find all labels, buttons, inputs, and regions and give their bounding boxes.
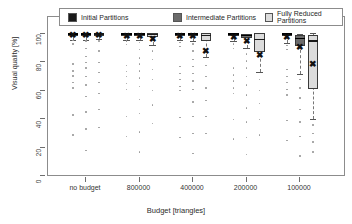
outlier-point bbox=[299, 136, 300, 137]
x-tick bbox=[246, 177, 247, 182]
outlier-point bbox=[85, 67, 86, 68]
outlier-point bbox=[259, 90, 260, 91]
median-line bbox=[254, 39, 265, 40]
outlier-point bbox=[98, 109, 99, 110]
outlier-point bbox=[246, 76, 247, 77]
whisker-cap bbox=[310, 119, 316, 120]
outlier-point bbox=[126, 89, 127, 90]
outlier-point bbox=[139, 49, 140, 50]
outlier-point bbox=[299, 155, 300, 156]
outlier-point bbox=[126, 40, 127, 41]
outlier-point bbox=[139, 113, 140, 114]
outlier-point bbox=[246, 107, 247, 108]
outlier-point bbox=[72, 87, 73, 88]
outlier-point bbox=[299, 87, 300, 88]
outlier-point bbox=[286, 82, 287, 83]
y-tick-label: 100 bbox=[35, 32, 42, 46]
outlier-point bbox=[126, 44, 127, 45]
outlier-point bbox=[286, 120, 287, 121]
median-line bbox=[295, 38, 306, 39]
outlier-point bbox=[192, 66, 193, 67]
outlier-point bbox=[179, 42, 180, 43]
outlier-point bbox=[179, 137, 180, 138]
legend-swatch bbox=[265, 13, 273, 22]
outlier-point bbox=[139, 99, 140, 100]
legend-swatch bbox=[173, 13, 182, 22]
outlier-point bbox=[139, 63, 140, 64]
outlier-point bbox=[233, 87, 234, 88]
outlier-point bbox=[299, 97, 300, 98]
outlier-point bbox=[259, 134, 260, 135]
y-tick-label: 20 bbox=[35, 146, 42, 160]
outlier-point bbox=[192, 59, 193, 60]
legend-item: Intermediate Partitions bbox=[173, 13, 256, 22]
outlier-point bbox=[205, 65, 206, 66]
outlier-point bbox=[312, 151, 313, 152]
median-line bbox=[308, 40, 319, 41]
outlier-point bbox=[72, 43, 73, 44]
mean-marker: ✖ bbox=[296, 42, 304, 51]
whisker-cap bbox=[310, 33, 316, 34]
outlier-point bbox=[205, 76, 206, 77]
legend-label: Intermediate Partitions bbox=[186, 14, 256, 21]
mean-marker: ✖ bbox=[123, 31, 131, 40]
mean-marker: ✖ bbox=[82, 31, 90, 40]
legend-item: Fully Reduced Partitions bbox=[265, 10, 342, 24]
x-tick bbox=[192, 177, 193, 182]
mean-marker: ✖ bbox=[69, 31, 77, 40]
outlier-point bbox=[246, 154, 247, 155]
outlier-point bbox=[98, 50, 99, 51]
y-tick-label: 80 bbox=[35, 60, 42, 74]
outlier-point bbox=[259, 103, 260, 104]
outlier-point bbox=[98, 40, 99, 41]
outlier-point bbox=[233, 80, 234, 81]
whisker-cap bbox=[230, 41, 236, 42]
outlier-point bbox=[139, 131, 140, 132]
outlier-point bbox=[72, 63, 73, 64]
outlier-point bbox=[85, 48, 86, 49]
outlier-point bbox=[233, 138, 234, 139]
outlier-point bbox=[126, 83, 127, 84]
y-tick-label: 40 bbox=[35, 117, 42, 131]
outlier-point bbox=[85, 84, 86, 85]
outlier-point bbox=[259, 79, 260, 80]
outlier-point bbox=[85, 128, 86, 129]
y-tick-label: 60 bbox=[35, 89, 42, 103]
outlier-point bbox=[98, 62, 99, 63]
x-tick bbox=[299, 177, 300, 182]
outlier-point bbox=[179, 66, 180, 67]
outlier-point bbox=[72, 114, 73, 115]
mean-marker: ✖ bbox=[149, 34, 157, 43]
mean-marker: ✖ bbox=[283, 32, 291, 41]
outlier-point bbox=[72, 82, 73, 83]
outlier-point bbox=[152, 104, 153, 105]
outlier-point bbox=[312, 133, 313, 134]
outlier-point bbox=[286, 89, 287, 90]
outlier-point bbox=[139, 42, 140, 43]
outlier-point bbox=[152, 59, 153, 60]
outlier-point bbox=[179, 79, 180, 80]
outlier-point bbox=[286, 49, 287, 50]
outlier-point bbox=[98, 72, 99, 73]
x-tick bbox=[139, 177, 140, 182]
whisker-cap bbox=[297, 74, 303, 75]
outlier-point bbox=[98, 127, 99, 128]
outlier-point bbox=[286, 69, 287, 70]
outlier-point bbox=[233, 67, 234, 68]
outlier-point bbox=[286, 94, 287, 95]
outlier-point bbox=[126, 76, 127, 77]
outlier-point bbox=[192, 50, 193, 51]
outlier-point bbox=[286, 76, 287, 77]
legend-label: Fully Reduced Partitions bbox=[277, 10, 342, 24]
outlier-point bbox=[72, 70, 73, 71]
y-tick-label: 0 bbox=[35, 174, 42, 188]
outlier-point bbox=[286, 45, 287, 46]
outlier-point bbox=[179, 86, 180, 87]
outlier-point bbox=[192, 43, 193, 44]
outlier-point bbox=[98, 82, 99, 83]
outlier-point bbox=[85, 96, 86, 97]
outlier-point bbox=[246, 137, 247, 138]
mean-marker: ✖ bbox=[176, 32, 184, 41]
outlier-point bbox=[72, 134, 73, 135]
outlier-point bbox=[299, 109, 300, 110]
